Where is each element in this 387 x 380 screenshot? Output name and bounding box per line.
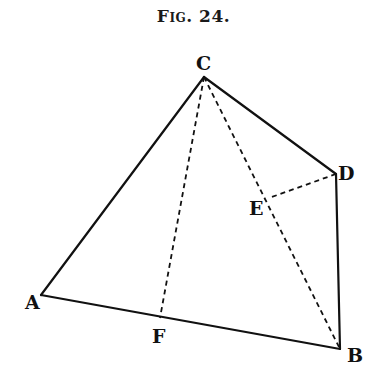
edge-AB (41, 295, 340, 349)
edge-CD (204, 77, 336, 174)
label-E: E (249, 197, 263, 219)
dashed-DE (269, 174, 336, 198)
label-D: D (338, 162, 354, 184)
label-F: F (152, 325, 166, 347)
geometry-diagram: C D E A F B (0, 0, 387, 380)
edge-AC (41, 77, 204, 295)
label-A: A (24, 291, 40, 313)
dashed-CF (160, 77, 204, 318)
label-C: C (196, 52, 211, 74)
edge-DB (336, 174, 340, 349)
label-B: B (347, 344, 363, 366)
dashed-CB (204, 77, 340, 349)
